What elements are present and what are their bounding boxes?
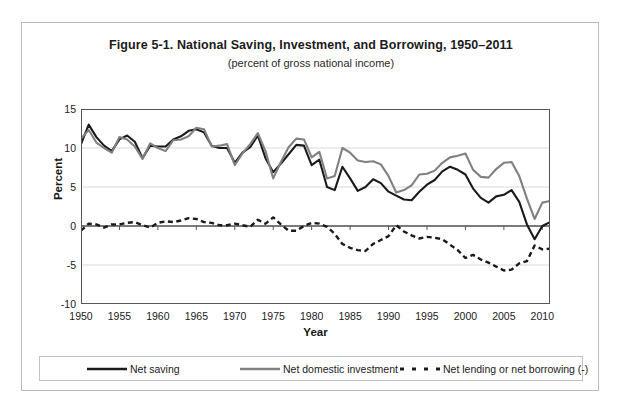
x-tick-label: 1985 (330, 310, 370, 322)
x-tick-label: 1995 (407, 310, 447, 322)
legend: Net savingNet domestic investmentNet len… (39, 356, 583, 381)
legend-item-0: Net saving (87, 357, 180, 380)
legend-label: Net saving (130, 363, 180, 375)
legend-label: Net domestic investment (283, 363, 398, 375)
page-title: Figure 5-1. National Saving, Investment,… (22, 38, 600, 52)
x-tick-label: 2010 (522, 310, 562, 322)
series-line-0 (81, 125, 550, 240)
figure-frame: Figure 5-1. National Saving, Investment,… (21, 22, 599, 391)
figure-page: Figure 5-1. National Saving, Investment,… (0, 0, 624, 411)
chart-subtitle: (percent of gross national income) (22, 57, 600, 69)
y-tick-label: 10 (46, 143, 76, 153)
legend-item-1: Net domestic investment (240, 357, 398, 380)
gridlines (81, 148, 550, 265)
x-tick-label: 1965 (176, 310, 216, 322)
y-tick-label: 0 (46, 221, 76, 231)
legend-swatch-icon (240, 363, 280, 375)
x-tick-label: 1955 (99, 310, 139, 322)
plot-area (81, 109, 550, 304)
y-tick-label: 15 (46, 104, 76, 114)
y-tick-label: -5 (46, 260, 76, 270)
legend-swatch-icon (400, 363, 440, 375)
legend-item-2: Net lending or net borrowing (-) (400, 357, 588, 380)
x-axis-title: Year (81, 326, 550, 338)
x-axis-tick-labels: 1950195519601965197019751980198519901995… (81, 310, 550, 326)
series-line-1 (81, 128, 550, 219)
x-tick-label: 1975 (253, 310, 293, 322)
y-tick-label: -10 (46, 299, 76, 309)
legend-label: Net lending or net borrowing (-) (443, 363, 588, 375)
y-axis-tick-labels: 151050-5-10 (42, 109, 76, 304)
x-tick-label: 1950 (61, 310, 101, 322)
x-tick-label: 2000 (445, 310, 485, 322)
x-tick-label: 1960 (138, 310, 178, 322)
chart-svg (81, 109, 550, 304)
plot-border (82, 110, 550, 304)
legend-swatch-icon (87, 363, 127, 375)
x-tick-label: 1990 (369, 310, 409, 322)
series-layer (81, 125, 550, 271)
y-tick-label: 5 (46, 182, 76, 192)
x-tick-label: 1980 (292, 310, 332, 322)
x-tick-label: 1970 (215, 310, 255, 322)
x-tick-label: 2005 (484, 310, 524, 322)
